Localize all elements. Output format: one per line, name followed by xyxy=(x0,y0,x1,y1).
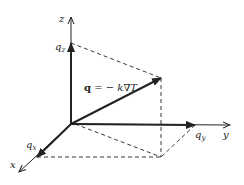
qz-sub: z xyxy=(61,46,65,54)
qx-vector xyxy=(37,124,71,157)
z-axis-label: z xyxy=(59,14,64,24)
equation-label: q = − k∇T xyxy=(84,83,137,93)
qy-sub: y xyxy=(201,134,205,142)
eq-equals: = − xyxy=(91,82,114,93)
qx-sub: x xyxy=(32,144,36,152)
qy-label: qy xyxy=(195,130,205,142)
qx-label: qx xyxy=(26,140,36,152)
x-axis-label: x xyxy=(10,160,16,170)
qz-label: qz xyxy=(55,42,65,54)
qy-vector xyxy=(71,124,195,125)
y-axis-label: y xyxy=(223,130,229,140)
eq-q: q xyxy=(84,82,91,93)
eq-T: T xyxy=(130,82,137,93)
